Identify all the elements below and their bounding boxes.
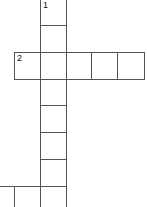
crossword-cell[interactable] xyxy=(91,52,118,80)
clue-number: 2 xyxy=(17,53,22,63)
crossword-cell[interactable]: 1 xyxy=(40,0,67,26)
crossword-cell[interactable] xyxy=(40,186,67,207)
crossword-cell[interactable] xyxy=(40,105,67,133)
crossword-cell[interactable] xyxy=(40,25,67,53)
crossword-cell[interactable] xyxy=(0,186,15,207)
crossword-cell[interactable] xyxy=(40,159,67,187)
crossword-cell[interactable]: 2 xyxy=(14,52,41,80)
crossword-cell[interactable] xyxy=(40,52,67,80)
clue-number: 1 xyxy=(43,0,48,10)
crossword-cell[interactable] xyxy=(66,52,92,80)
crossword-cell[interactable] xyxy=(40,79,67,106)
crossword-cell[interactable] xyxy=(14,186,41,207)
crossword-cell[interactable] xyxy=(40,132,67,160)
crossword-cell[interactable] xyxy=(117,52,145,80)
